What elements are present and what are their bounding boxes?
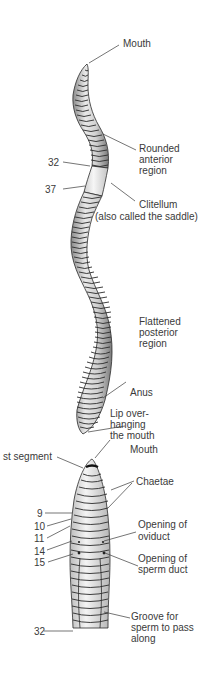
label-mouth: Mouth (123, 38, 151, 50)
label-sperm-duct-line2: sperm duct (138, 564, 187, 576)
label-rounded-anterior-line2: anterior (139, 154, 173, 166)
label-oviduct-line2: oviduct (138, 531, 170, 543)
head-body (70, 459, 110, 628)
label-oviduct-line1: Opening of (138, 519, 187, 531)
label-rounded-anterior-line1: Rounded (139, 143, 180, 155)
label-lip-line2: hanging (110, 419, 146, 431)
label-segment-32: 32 (48, 157, 59, 168)
label-first-segment: st segment (3, 451, 52, 463)
label-chaetae: Chaetae (136, 476, 174, 488)
label-flattened-posterior-line3: region (139, 338, 167, 350)
label-lip-line3: the mouth (110, 430, 154, 442)
label-segment-10: 10 (34, 521, 45, 532)
label-groove-line2: sperm to pass (131, 622, 194, 634)
whole-worm (63, 45, 136, 434)
label-groove-line3: along (131, 633, 155, 645)
label-anus: Anus (130, 387, 153, 399)
label-clitellum-line2: (also called the saddle) (95, 211, 198, 223)
label-flattened-posterior-line2: posterior (139, 327, 178, 339)
label-segment-9: 9 (37, 508, 43, 519)
label-sperm-duct-line1: Opening of (138, 553, 187, 565)
label-groove-line1: Groove for (131, 611, 178, 623)
label-segment-37: 37 (45, 184, 56, 195)
label-flattened-posterior-line1: Flattened (139, 316, 181, 328)
clitellum (84, 166, 108, 196)
anterior-detail (44, 440, 138, 631)
label-segment-15: 15 (34, 557, 45, 568)
label-segment-14: 14 (34, 546, 45, 557)
label-detail-segment-32: 32 (34, 626, 45, 637)
anterior-body (73, 64, 109, 168)
label-clitellum-line1: Clitellum (139, 199, 177, 211)
label-lip-line1: Lip over- (110, 408, 149, 420)
label-segment-11: 11 (34, 533, 44, 544)
label-detail-mouth: Mouth (130, 444, 158, 456)
label-rounded-anterior-line3: region (139, 165, 167, 177)
